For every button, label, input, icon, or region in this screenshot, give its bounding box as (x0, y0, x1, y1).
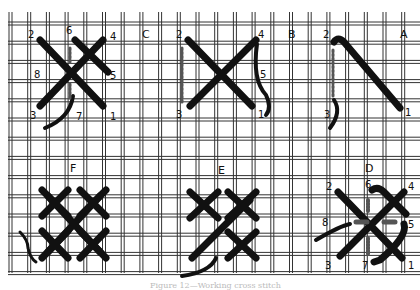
num-4: 4 (258, 29, 264, 40)
panel-a-stitches (330, 39, 400, 128)
cross-stitch-diagram: 2 6 4 8 5 3 7 1 C 2 4 5 1 3 B 2 1 3 A F (0, 0, 420, 290)
num-5: 5 (110, 70, 116, 81)
num-1: 1 (408, 260, 414, 271)
num-3: 3 (30, 110, 36, 121)
num-7: 7 (76, 111, 82, 122)
panel-e-stitches (182, 192, 256, 276)
num-2: 2 (326, 181, 332, 192)
panel-label-e: E (218, 164, 225, 177)
canvas-grid: 2 6 4 8 5 3 7 1 C 2 4 5 1 3 B 2 1 3 A F (0, 0, 420, 290)
panel-label-a: A (400, 28, 408, 41)
num-4: 4 (408, 181, 414, 192)
num-1: 1 (405, 107, 411, 118)
num-3: 3 (325, 260, 331, 271)
num-8: 8 (322, 217, 328, 228)
num-5: 5 (260, 69, 266, 80)
num-6: 6 (365, 179, 371, 190)
num-7: 7 (362, 260, 368, 271)
figure-caption: Figure 12—Working cross stitch (150, 281, 281, 290)
num-8: 8 (34, 69, 40, 80)
panel-label-b: B (288, 28, 296, 41)
panel-c-stitches (40, 40, 108, 128)
num-2: 2 (176, 29, 182, 40)
num-3: 3 (176, 109, 182, 120)
num-4: 4 (110, 31, 116, 42)
num-5: 5 (408, 219, 414, 230)
panel-label-d: D (365, 162, 373, 175)
num-3: 3 (324, 109, 330, 120)
num-1: 1 (110, 111, 116, 122)
panel-b-stitches (182, 40, 269, 115)
num-2: 2 (323, 29, 329, 40)
num-6: 6 (66, 25, 72, 36)
num-2: 2 (28, 29, 34, 40)
panel-label-f: F (70, 162, 76, 175)
num-1: 1 (258, 109, 264, 120)
panel-label-c: C (142, 28, 150, 41)
panel-f-stitches (20, 190, 106, 262)
